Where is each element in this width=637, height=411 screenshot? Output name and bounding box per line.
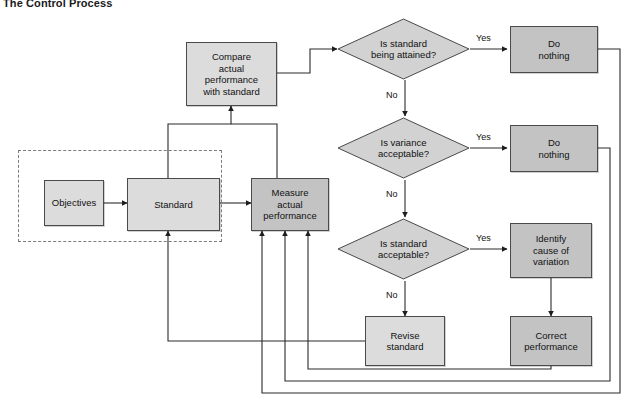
flowchart-canvas: The Control Process — [0, 0, 637, 411]
diagram-title: The Control Process — [3, 0, 112, 9]
node-objectives[interactable]: Objectives — [44, 180, 104, 226]
edge-measure-compare — [231, 124, 277, 178]
node-decision-is-standard-acceptable[interactable]: Is standardacceptable? — [337, 218, 470, 280]
edge-label-yes-2: Yes — [476, 132, 491, 142]
edge-label-yes-1: Yes — [476, 33, 491, 43]
node-revise-standard-label: Revisestandard — [387, 330, 424, 353]
edge-label-yes-3: Yes — [476, 233, 491, 243]
node-identify-cause-label: Identifycause ofvariation — [533, 233, 569, 268]
edge-label-no-2: No — [386, 189, 398, 199]
edge-label-no-1: No — [386, 90, 398, 100]
node-decision-3-label: Is standardacceptable? — [337, 218, 470, 280]
node-measure-label: Measureactualperformance — [263, 187, 316, 222]
node-standard[interactable]: Standard — [127, 178, 220, 231]
edge-revise-standard — [168, 231, 365, 341]
node-identify-cause-of-variation[interactable]: Identifycause ofvariation — [510, 223, 592, 278]
node-revise-standard[interactable]: Revisestandard — [365, 316, 445, 366]
node-compare-label: Compareactualperformancewith standard — [203, 51, 260, 97]
edge-label-no-3: No — [386, 290, 398, 300]
node-decision-is-variance-acceptable[interactable]: Is varianceacceptable? — [337, 117, 470, 179]
node-do-nothing-1-label: Donothing — [538, 38, 569, 61]
node-do-nothing-2[interactable]: Donothing — [510, 125, 598, 172]
node-decision-is-standard-being-attained[interactable]: Is standardbeing attained? — [337, 18, 470, 80]
edge-compare-decision1 — [277, 49, 337, 73]
node-objectives-label: Objectives — [52, 197, 96, 209]
node-compare-actual-performance[interactable]: Compareactualperformancewith standard — [186, 42, 277, 106]
node-decision-2-label: Is varianceacceptable? — [337, 117, 470, 179]
node-correct-performance-label: Correctperformance — [524, 330, 577, 353]
node-standard-label: Standard — [154, 199, 193, 211]
node-do-nothing-2-label: Donothing — [538, 137, 569, 160]
node-correct-performance[interactable]: Correctperformance — [510, 316, 592, 366]
node-measure-actual-performance[interactable]: Measureactualperformance — [251, 178, 329, 231]
node-decision-1-label: Is standardbeing attained? — [337, 18, 470, 80]
node-do-nothing-1[interactable]: Donothing — [510, 26, 598, 73]
